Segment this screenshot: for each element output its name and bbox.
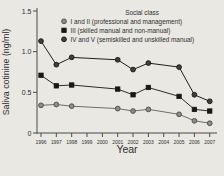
data-point (177, 112, 182, 117)
line-chart: 00.51.01.5199619971998199920002001200220… (0, 0, 224, 176)
legend-item-marker (62, 37, 67, 42)
cotinine-trend-figure: 00.51.01.5199619971998199920002001200220… (0, 0, 224, 176)
data-point (131, 109, 136, 114)
x-tick-label: 1996 (36, 140, 47, 145)
y-tick-label: 1.0 (22, 48, 32, 55)
data-point (39, 73, 43, 77)
data-point (192, 118, 197, 123)
data-point (115, 57, 120, 62)
data-point (54, 84, 58, 88)
x-tick-label: 2004 (158, 140, 169, 145)
data-point (192, 92, 197, 97)
legend-item-label: III (skilled manual and non-manual) (71, 27, 171, 35)
legend-item-label: I and II (professional and management) (71, 18, 183, 26)
data-point (69, 104, 74, 109)
legend-item-marker (62, 19, 67, 24)
data-point (116, 87, 120, 91)
data-point (69, 55, 74, 60)
legend-title: Social class (125, 9, 159, 16)
y-tick-label: 0 (28, 130, 32, 137)
y-tick-label: 0.5 (22, 89, 32, 96)
data-point (54, 62, 59, 67)
x-tick-label: 2005 (174, 140, 185, 145)
data-point (115, 106, 120, 111)
data-point (131, 93, 135, 97)
data-point (69, 83, 73, 87)
data-point (177, 94, 181, 98)
data-point (146, 107, 151, 112)
data-point (177, 65, 182, 70)
legend-item-label: IV and V (semiskilled and unskilled manu… (71, 36, 195, 44)
x-axis-title: Year (116, 143, 138, 155)
data-point (54, 102, 59, 107)
x-tick-label: 1997 (51, 140, 62, 145)
data-point (207, 99, 212, 104)
x-tick-label: 2006 (189, 140, 200, 145)
data-point (208, 109, 212, 113)
data-point (39, 103, 44, 108)
data-point (207, 121, 212, 126)
legend-item-marker (62, 28, 66, 32)
y-tick-label: 1.5 (22, 8, 32, 15)
x-tick-label: 1998 (66, 140, 77, 145)
x-tick-label: 1999 (82, 140, 93, 145)
x-tick-label: 2000 (97, 140, 108, 145)
data-point (131, 67, 136, 72)
x-tick-label: 2003 (143, 140, 154, 145)
y-axis-title: Saliva cotinine (ng/ml) (1, 29, 11, 116)
data-point (192, 107, 196, 111)
data-point (39, 39, 44, 44)
x-tick-label: 2007 (204, 140, 215, 145)
data-point (146, 85, 150, 89)
data-point (146, 61, 151, 66)
